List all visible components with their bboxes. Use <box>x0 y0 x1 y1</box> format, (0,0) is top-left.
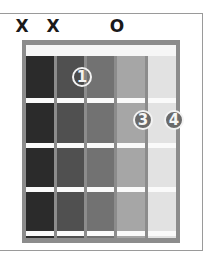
fret-line <box>26 98 54 103</box>
open-string-marker: O <box>107 16 127 36</box>
fret-line <box>117 187 145 192</box>
fret-line <box>57 187 84 192</box>
fret-line <box>87 143 114 148</box>
fret-line <box>57 143 84 148</box>
fret-line <box>117 98 145 103</box>
finger-3-marker: 3 <box>133 110 153 130</box>
fret-line <box>87 98 114 103</box>
muted-string-marker: X <box>12 16 32 36</box>
muted-string-marker: X <box>43 16 63 36</box>
nut <box>26 45 176 56</box>
fret-line <box>87 231 114 236</box>
fret-line <box>148 231 176 236</box>
finger-4-marker: 4 <box>164 110 184 130</box>
fret-line <box>148 143 176 148</box>
fret-line <box>26 143 54 148</box>
fret-line <box>87 187 114 192</box>
fret-line <box>117 231 145 236</box>
string-line <box>176 56 179 242</box>
fret-line <box>57 231 84 236</box>
fret-line <box>117 143 145 148</box>
fret-line <box>26 187 54 192</box>
finger-1-marker: 1 <box>72 67 92 87</box>
fret-line <box>57 98 84 103</box>
string-line <box>145 56 148 242</box>
fret-line <box>26 231 54 236</box>
fret-line <box>148 187 176 192</box>
fret-line <box>148 98 176 103</box>
